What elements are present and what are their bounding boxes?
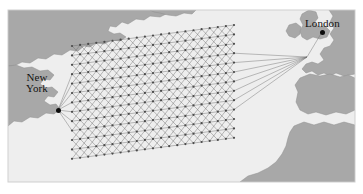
network-node	[176, 144, 178, 146]
network-node	[192, 142, 194, 144]
network-node	[71, 73, 73, 75]
network-node	[217, 92, 219, 94]
network-node	[201, 85, 203, 87]
network-node	[111, 134, 113, 136]
transatlantic-network-figure: New York London	[0, 0, 363, 194]
network-node	[217, 120, 219, 122]
network-node	[136, 131, 138, 133]
network-node	[217, 101, 219, 103]
network-node	[71, 148, 73, 150]
network-node	[136, 37, 138, 39]
network-node	[225, 81, 227, 83]
network-node	[111, 68, 113, 70]
network-node	[233, 118, 235, 120]
network-node	[176, 97, 178, 99]
network-node	[103, 144, 105, 146]
network-node	[111, 143, 113, 145]
network-node	[87, 109, 89, 111]
network-node	[209, 121, 211, 123]
network-node	[71, 83, 73, 85]
network-node	[160, 33, 162, 35]
network-node	[152, 138, 154, 140]
network-node	[225, 128, 227, 130]
network-node	[87, 71, 89, 73]
network-node	[103, 78, 105, 80]
network-node	[160, 71, 162, 73]
network-node	[233, 43, 235, 45]
network-node	[201, 75, 203, 77]
network-node	[71, 139, 73, 141]
network-node	[128, 113, 130, 115]
network-node	[209, 130, 211, 132]
network-node	[160, 99, 162, 101]
network-node	[176, 31, 178, 33]
network-node	[160, 146, 162, 148]
network-node	[136, 84, 138, 86]
landmass-iberia	[295, 74, 355, 115]
network-node	[120, 142, 122, 144]
network-node	[152, 63, 154, 65]
network-node	[128, 38, 130, 40]
network-node	[233, 127, 235, 129]
network-node	[201, 28, 203, 30]
network-node	[209, 74, 211, 76]
network-node	[217, 111, 219, 113]
network-node	[192, 114, 194, 116]
network-node	[120, 114, 122, 116]
network-node	[152, 100, 154, 102]
network-node	[152, 81, 154, 83]
city-label-london: London	[305, 18, 340, 29]
network-node	[144, 45, 146, 47]
network-node	[217, 54, 219, 56]
network-node	[144, 139, 146, 141]
network-node	[79, 157, 81, 159]
network-node	[103, 41, 105, 43]
network-node	[79, 63, 81, 65]
network-node	[79, 147, 81, 149]
network-node	[209, 65, 211, 67]
network-node	[79, 110, 81, 112]
network-node	[209, 112, 211, 114]
network-node	[184, 96, 186, 98]
network-node	[201, 56, 203, 58]
network-node	[233, 33, 235, 35]
network-node	[192, 29, 194, 31]
network-node	[160, 127, 162, 129]
network-node	[103, 88, 105, 90]
network-node	[111, 58, 113, 60]
network-node	[184, 49, 186, 51]
network-node	[209, 55, 211, 57]
network-node	[192, 67, 194, 69]
network-node	[120, 151, 122, 153]
network-node	[144, 129, 146, 131]
network-node	[120, 57, 122, 59]
network-node	[225, 119, 227, 121]
network-node	[201, 141, 203, 143]
network-node	[184, 105, 186, 107]
network-node	[79, 81, 81, 83]
network-node	[168, 79, 170, 81]
network-node	[176, 135, 178, 137]
network-node	[217, 129, 219, 131]
network-node	[120, 86, 122, 88]
network-node	[128, 56, 130, 58]
network-node	[87, 52, 89, 54]
network-node	[144, 111, 146, 113]
network-node	[136, 65, 138, 67]
network-node	[192, 95, 194, 97]
map-canvas	[0, 0, 363, 194]
network-node	[184, 124, 186, 126]
network-node	[168, 51, 170, 53]
network-node	[217, 26, 219, 28]
network-node	[160, 52, 162, 54]
network-node	[144, 35, 146, 37]
city-label-london-line1: London	[305, 18, 340, 29]
network-node	[152, 72, 154, 74]
network-node	[111, 124, 113, 126]
network-node	[233, 62, 235, 64]
network-node	[111, 115, 113, 117]
network-node	[136, 46, 138, 48]
network-node	[71, 111, 73, 113]
network-node	[209, 140, 211, 142]
network-node	[87, 90, 89, 92]
